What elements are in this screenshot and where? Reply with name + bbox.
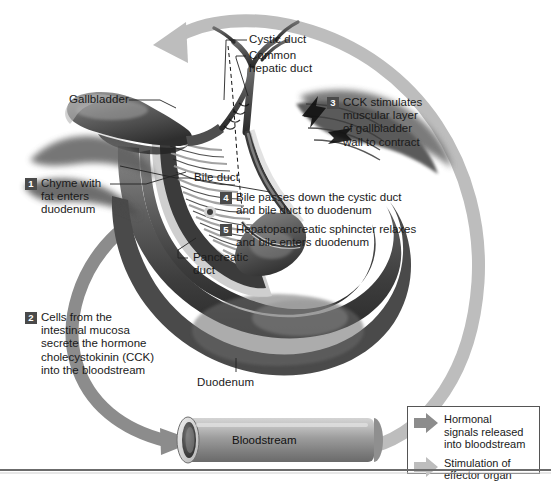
step-text-5: Hepatopancreatic sphincter relaxes and b… xyxy=(236,223,416,249)
label-gallbladder: Gallbladder xyxy=(69,93,129,106)
legend-box: Hormonal signals released into bloodstre… xyxy=(407,406,540,474)
legend-text-hormonal: Hormonal signals released into bloodstre… xyxy=(444,412,525,451)
step-text-1: Chyme with fat enters duodenum xyxy=(41,177,101,217)
step-badge-1: 1 xyxy=(25,178,37,190)
legend-item-hormonal: Hormonal signals released into bloodstre… xyxy=(413,412,535,451)
label-pancreatic-duct: Pancreatic duct xyxy=(193,251,248,277)
label-common-hepatic-duct: Common hepatic duct xyxy=(249,49,312,75)
callout-step-1: 1 Chyme with fat enters duodenum xyxy=(25,177,120,217)
step-badge-5: 5 xyxy=(220,224,232,236)
step-badge-2: 2 xyxy=(25,312,37,324)
label-bile-duct: Bile duct xyxy=(194,171,239,184)
legend-item-stimulation: Stimulation of effector organ xyxy=(413,456,535,482)
label-duodenum: Duodenum xyxy=(197,376,254,389)
step-text-3: CCK stimulates muscular layer of gallbla… xyxy=(343,96,422,149)
callout-step-2: 2 Cells from the intestinal mucosa secre… xyxy=(25,311,185,377)
legend-text-stimulation: Stimulation of effector organ xyxy=(444,456,512,482)
step-text-2: Cells from the intestinal mucosa secrete… xyxy=(41,311,154,377)
hormonal-arrow-icon xyxy=(413,412,439,434)
step-badge-4: 4 xyxy=(220,192,232,204)
stimulation-arrow-icon xyxy=(413,456,439,478)
bloodstream-label: Bloodstream xyxy=(232,434,297,446)
callout-step-3: 3 CCK stimulates muscular layer of gallb… xyxy=(327,96,439,149)
step-text-4: Bile passes down the cystic duct and bil… xyxy=(236,191,402,217)
callout-step-4: 4 Bile passes down the cystic duct and b… xyxy=(220,191,445,217)
step-badge-3: 3 xyxy=(327,97,339,109)
diagram-figure: Cystic duct Common hepatic duct Gallblad… xyxy=(0,0,551,486)
label-cystic-duct: Cystic duct xyxy=(249,33,306,46)
callout-step-5: 5 Hepatopancreatic sphincter relaxes and… xyxy=(220,223,448,249)
